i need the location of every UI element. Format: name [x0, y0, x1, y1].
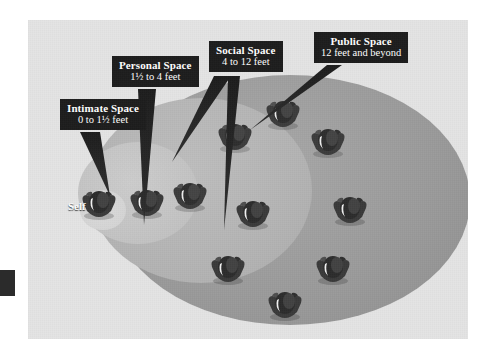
callout-public-distance: 12 feet and beyond — [321, 47, 401, 59]
figure-public-2[interactable] — [307, 116, 349, 160]
callout-social-title: Social Space — [216, 44, 276, 56]
figure-public-3[interactable] — [329, 184, 371, 228]
figure-public-1[interactable] — [262, 88, 304, 132]
figure-social-1[interactable] — [214, 111, 256, 155]
callout-social-distance: 4 to 12 feet — [216, 56, 276, 68]
figure-public-5[interactable] — [264, 279, 306, 323]
callout-personal-space[interactable]: Personal Space 1½ to 4 feet — [112, 56, 199, 87]
callout-personal-title: Personal Space — [119, 59, 192, 71]
self-label: Self — [68, 200, 86, 212]
figure-public-4[interactable] — [312, 243, 354, 287]
page-edge-tab — [0, 270, 15, 296]
figure-personal-1[interactable] — [126, 177, 168, 221]
callout-intimate-distance: 0 to 1½ feet — [67, 114, 139, 126]
callout-social-space[interactable]: Social Space 4 to 12 feet — [209, 41, 283, 72]
callout-intimate-space[interactable]: Intimate Space 0 to 1½ feet — [60, 99, 146, 130]
artboard: Self Intimate Space 0 to 1½ feet Persona… — [28, 20, 468, 339]
callout-personal-distance: 1½ to 4 feet — [119, 71, 192, 83]
callout-intimate-title: Intimate Space — [67, 102, 139, 114]
figure-social-3[interactable] — [207, 243, 249, 287]
callout-public-space[interactable]: Public Space 12 feet and beyond — [314, 32, 408, 63]
callout-public-title: Public Space — [321, 35, 401, 47]
figure-personal-2[interactable] — [169, 170, 211, 214]
diagram-canvas: Self Intimate Space 0 to 1½ feet Persona… — [0, 0, 498, 358]
figure-social-2[interactable] — [232, 188, 274, 232]
